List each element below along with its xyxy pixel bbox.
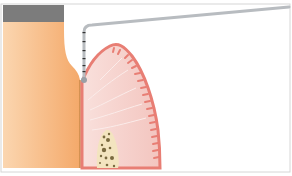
enamel (3, 5, 64, 22)
periodontal-diagram (0, 0, 292, 176)
illustration-frame (0, 0, 292, 176)
probe-tip (81, 77, 87, 83)
